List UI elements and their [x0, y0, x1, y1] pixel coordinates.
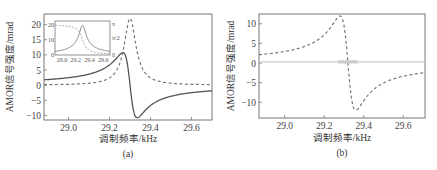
y-tick-label: −5 [246, 78, 256, 88]
panel-a-x-ticks: 29.029.229.429.6 [60, 117, 200, 133]
series-line [44, 53, 212, 118]
x-tick-label: 29.0 [60, 123, 77, 133]
y-tick-label: −10 [241, 98, 256, 108]
inset-x-tick-label: 29.4 [84, 57, 95, 63]
inset-x-tick-label: 29.0 [57, 57, 68, 63]
inset-right-tick-label: π/2 [112, 35, 120, 41]
inset-y-tick-label: 20 [48, 22, 54, 28]
x-tick-label: 29.6 [183, 123, 200, 133]
inset-right-tick-label: 0 [112, 52, 115, 58]
inset-right-tick-label: π [112, 21, 115, 27]
y-tick-label: −10 [26, 111, 41, 121]
series-line [259, 60, 425, 63]
y-tick-label: 5 [36, 66, 41, 76]
inset-x-tick-label: 29.6 [98, 57, 109, 63]
x-tick-label: 29.4 [142, 123, 159, 133]
panel-b: 1050−5−10 29.029.229.429.6 AMOR信号强度/mrad… [225, 14, 425, 159]
panel-a-inset: 29.029.229.429.6010200π/2π [48, 21, 120, 63]
panel-b-plot-frame [259, 14, 425, 118]
inset-y-tick-label: 0 [51, 52, 54, 58]
x-tick-label: 29.2 [316, 121, 333, 131]
x-tick-label: 29.2 [101, 123, 118, 133]
inset-x-tick-label: 29.2 [70, 57, 81, 63]
panel-b-series [259, 16, 425, 110]
panel-a: 20151050−5−10 29.029.229.429.6 AMOR信号强度/… [4, 14, 212, 160]
inset-y-tick-label: 10 [48, 37, 54, 43]
y-tick-label: 0 [36, 81, 41, 91]
y-tick-label: 20 [32, 20, 42, 30]
panel-b-x-ticks: 29.029.229.429.6 [276, 115, 411, 131]
y-tick-label: 0 [251, 59, 256, 69]
panel-a-caption: (a) [123, 149, 134, 160]
y-tick-label: 10 [247, 19, 257, 29]
y-tick-label: 10 [32, 50, 42, 60]
y-tick-label: 15 [32, 35, 42, 45]
figure: 20151050−5−10 29.029.229.429.6 AMOR信号强度/… [0, 0, 437, 170]
y-tick-label: 5 [251, 39, 256, 49]
panel-b-caption: (b) [336, 148, 347, 159]
x-tick-label: 29.6 [395, 121, 412, 131]
panel-b-x-axis-label: 调制频率/kHz [313, 132, 371, 143]
x-tick-label: 29.4 [355, 121, 372, 131]
panel-a-x-axis-label: 调制频率/kHz [99, 133, 157, 144]
panel-a-y-axis-label: AMOR信号强度/mrad [4, 21, 15, 112]
x-tick-label: 29.0 [276, 121, 293, 131]
y-tick-label: −5 [31, 96, 41, 106]
panel-b-y-axis-label: AMOR信号强度/mrad [225, 20, 236, 111]
